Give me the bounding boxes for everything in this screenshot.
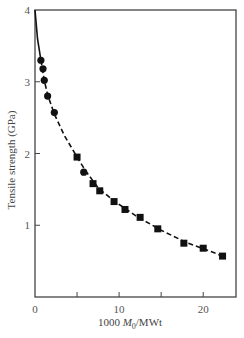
y-tick-label: 4	[25, 4, 31, 16]
data-points	[37, 57, 226, 260]
circle-marker	[51, 109, 58, 116]
x-tick-label: 20	[198, 303, 210, 315]
y-tick-label: 2	[25, 148, 31, 160]
fit-curve	[35, 10, 223, 256]
square-marker	[90, 180, 97, 187]
circle-marker	[39, 65, 46, 72]
square-marker	[121, 206, 128, 213]
x-axis-label: 1000 M0/MWt	[98, 316, 162, 331]
square-marker	[137, 214, 144, 221]
plot-frame	[35, 10, 236, 297]
circle-marker	[80, 169, 87, 176]
y-axis-label: Tensile strength (GPa)	[5, 110, 18, 209]
square-marker	[219, 253, 226, 260]
plot-border	[35, 10, 236, 297]
y-tick-label: 3	[25, 76, 31, 88]
axis-ticks: 010201234	[25, 4, 210, 315]
x-tick-label: 0	[32, 303, 38, 315]
square-marker	[74, 154, 81, 161]
y-tick-label: 1	[25, 219, 31, 231]
x-tick-label: 10	[114, 303, 126, 315]
square-marker	[154, 225, 161, 232]
fit-curve-dashed	[41, 60, 223, 256]
tensile-strength-chart: 010201234 Tensile strength (GPa) 1000 M0…	[0, 0, 244, 338]
square-marker	[200, 245, 207, 252]
circle-marker	[44, 93, 51, 100]
circle-marker	[41, 77, 48, 84]
square-marker	[111, 198, 118, 205]
fit-curve-solid	[35, 10, 41, 60]
circle-marker	[37, 57, 44, 64]
square-marker	[180, 240, 187, 247]
square-marker	[96, 187, 103, 194]
